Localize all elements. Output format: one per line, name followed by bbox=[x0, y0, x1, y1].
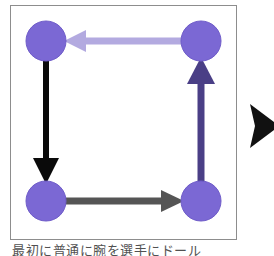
graph-node-top-left[interactable] bbox=[26, 21, 66, 61]
edge-top-arrowhead bbox=[64, 30, 86, 52]
edge-left-arrowhead bbox=[33, 158, 59, 184]
edge-right bbox=[187, 57, 215, 182]
next-triangle-icon[interactable] bbox=[248, 100, 274, 152]
graph-node-bottom-right[interactable] bbox=[181, 181, 221, 221]
edge-left bbox=[33, 59, 59, 184]
figure-caption: 最初に普通に腕を選手にドール bbox=[12, 243, 274, 256]
diagram-panel bbox=[10, 5, 237, 240]
cycle-graph bbox=[11, 6, 236, 239]
figure-root: 最初に普通に腕を選手にドール bbox=[0, 0, 274, 256]
edge-bottom bbox=[64, 190, 184, 212]
graph-node-top-right[interactable] bbox=[181, 21, 221, 61]
next-triangle-shape bbox=[250, 104, 274, 148]
edge-top bbox=[64, 30, 183, 52]
graph-node-bottom-left[interactable] bbox=[26, 181, 66, 221]
